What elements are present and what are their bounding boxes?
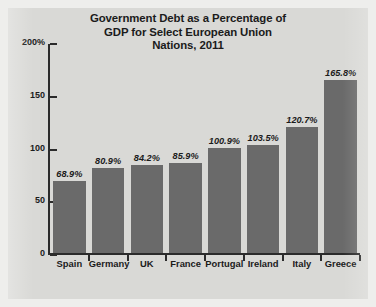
- bar[interactable]: 165.8%: [324, 80, 357, 253]
- bar-slot: 85.9%: [166, 44, 205, 253]
- x-label-uk: UK: [128, 258, 167, 269]
- x-label-spain: Spain: [50, 258, 89, 269]
- bar[interactable]: 100.9%: [208, 148, 241, 253]
- bar-value-label: 85.9%: [169, 151, 202, 161]
- x-axis-labels: SpainGermanyUKFrancePortugalIrelandItaly…: [50, 258, 360, 274]
- bar-value-label: 68.9%: [53, 169, 86, 179]
- bar-value-label: 165.8%: [324, 68, 357, 78]
- bar[interactable]: 120.7%: [286, 127, 319, 253]
- bar-value-label: 84.2%: [131, 153, 164, 163]
- plot-area: 200%150100500 68.9%80.9%84.2%85.9%100.9%…: [48, 44, 360, 255]
- x-label-ireland: Ireland: [244, 258, 283, 269]
- y-tick-label-150: 150: [30, 90, 45, 100]
- bar-value-label: 80.9%: [92, 156, 125, 166]
- y-tick-label-200: 200%: [22, 37, 45, 47]
- bar-slot: 120.7%: [283, 44, 322, 253]
- bar[interactable]: 84.2%: [131, 165, 164, 253]
- bar-slot: 165.8%: [321, 44, 360, 253]
- y-tick-label-0: 0: [40, 248, 45, 258]
- chart-title-line-2: GDP for Select European Union: [8, 26, 368, 40]
- bar[interactable]: 68.9%: [53, 181, 86, 253]
- x-label-portugal: Portugal: [205, 258, 244, 269]
- bar[interactable]: 80.9%: [92, 168, 125, 253]
- bar-slot: 103.5%: [244, 44, 283, 253]
- y-tick-label-100: 100: [30, 143, 45, 153]
- bar-value-label: 120.7%: [286, 115, 319, 125]
- y-tick-label-50: 50: [35, 195, 45, 205]
- bar-value-label: 103.5%: [247, 133, 280, 143]
- x-label-italy: Italy: [283, 258, 322, 269]
- x-label-greece: Greece: [321, 258, 360, 269]
- chart-title-line-1: Government Debt as a Percentage of: [8, 12, 368, 26]
- bar-slot: 80.9%: [89, 44, 128, 253]
- x-label-france: France: [166, 258, 205, 269]
- bar[interactable]: 103.5%: [247, 145, 280, 253]
- bar-value-label: 100.9%: [208, 136, 241, 146]
- bar-slot: 68.9%: [50, 44, 89, 253]
- bar-slot: 100.9%: [205, 44, 244, 253]
- bar-series: 68.9%80.9%84.2%85.9%100.9%103.5%120.7%16…: [50, 44, 360, 253]
- y-tick-0: 0: [50, 254, 57, 256]
- bar[interactable]: 85.9%: [169, 163, 202, 253]
- chart-figure: Government Debt as a Percentage of GDP f…: [0, 0, 376, 307]
- bar-slot: 84.2%: [128, 44, 167, 253]
- x-label-germany: Germany: [89, 258, 128, 269]
